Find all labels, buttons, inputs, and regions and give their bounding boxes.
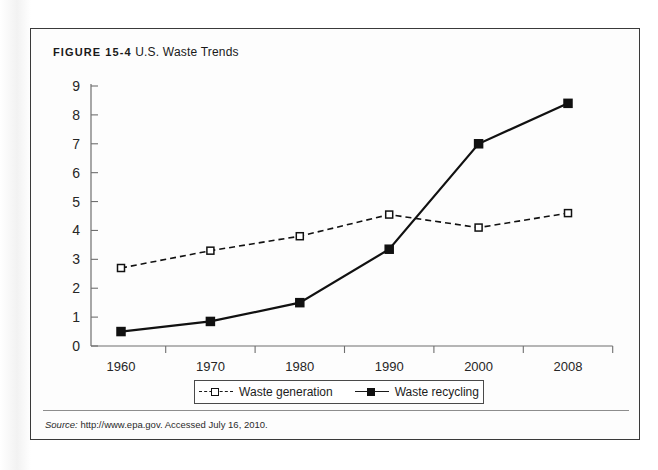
data-point-marker bbox=[385, 245, 393, 253]
y-tick-label: 4 bbox=[72, 222, 80, 238]
x-tick-label: 1990 bbox=[375, 359, 404, 374]
series-line-waste-recycling bbox=[121, 103, 568, 331]
data-point-marker bbox=[296, 233, 303, 240]
legend-label-waste-recycling: Waste recycling bbox=[395, 385, 479, 399]
y-tick-label: 3 bbox=[72, 251, 80, 267]
data-point-marker bbox=[475, 224, 482, 231]
chart-legend: Waste generation Waste recycling bbox=[194, 380, 484, 404]
x-tick-label: 1960 bbox=[107, 359, 136, 374]
x-tick-label: 1980 bbox=[285, 359, 314, 374]
y-tick-label: 6 bbox=[72, 165, 80, 181]
x-tick-label: 1970 bbox=[196, 359, 225, 374]
solid-filled-square-icon bbox=[355, 386, 389, 398]
source-note: Source: http://www.epa.gov. Accessed Jul… bbox=[45, 419, 268, 430]
y-tick-label: 7 bbox=[72, 136, 80, 152]
data-point-marker bbox=[206, 317, 214, 325]
x-tick-label: 2000 bbox=[464, 359, 493, 374]
data-point-marker bbox=[296, 299, 304, 307]
legend-label-waste-generation: Waste generation bbox=[239, 385, 333, 399]
legend-item-waste-recycling: Waste recycling bbox=[355, 385, 479, 399]
data-point-marker bbox=[565, 210, 572, 217]
dashed-open-square-icon bbox=[199, 386, 233, 398]
data-point-marker bbox=[564, 99, 572, 107]
y-tick-label: 8 bbox=[72, 107, 80, 123]
y-tick-label: 1 bbox=[72, 309, 80, 325]
data-series-group bbox=[117, 99, 572, 335]
x-tick-label: 2008 bbox=[554, 359, 583, 374]
figure-container: FIGURE 15-4 U.S. Waste Trends 0123456789… bbox=[30, 28, 640, 440]
y-tick-label: 9 bbox=[72, 78, 80, 94]
data-point-marker bbox=[117, 328, 125, 336]
source-divider bbox=[43, 410, 629, 411]
source-value: http://www.epa.gov. Accessed July 16, 20… bbox=[78, 419, 268, 430]
y-tick-label: 0 bbox=[72, 338, 80, 354]
y-tick-label: 2 bbox=[72, 280, 80, 296]
x-axis: 196019701980199020002008 bbox=[91, 346, 613, 374]
data-point-marker bbox=[475, 140, 483, 148]
screenshot-page: FIGURE 15-4 U.S. Waste Trends 0123456789… bbox=[0, 0, 658, 470]
y-tick-label: 5 bbox=[72, 194, 80, 210]
data-point-marker bbox=[207, 247, 214, 254]
legend-item-waste-generation: Waste generation bbox=[199, 385, 333, 399]
series-line-waste-generation bbox=[121, 213, 568, 268]
source-label: Source: bbox=[45, 419, 78, 430]
data-point-marker bbox=[118, 265, 125, 272]
page-edge-shading bbox=[0, 0, 31, 470]
data-point-marker bbox=[386, 211, 393, 218]
y-axis: 0123456789 bbox=[72, 78, 98, 354]
